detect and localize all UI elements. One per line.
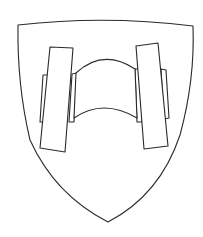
coat-of-arms bbox=[0, 0, 203, 237]
